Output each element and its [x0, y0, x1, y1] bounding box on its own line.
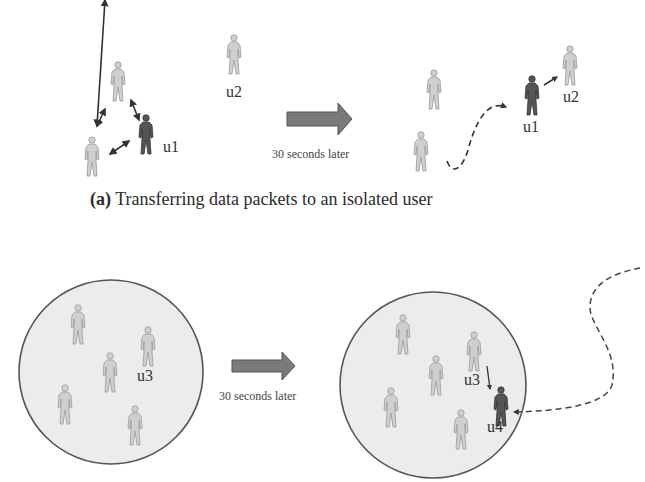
link-arrow-icon — [131, 100, 139, 120]
transition-label: 30 seconds later — [272, 147, 349, 162]
user-u1-label: u1 — [523, 118, 539, 136]
user-u1-icon — [525, 76, 539, 115]
user-icon — [111, 62, 125, 101]
panel-b-after — [340, 268, 640, 478]
user-u2-label: u2 — [563, 88, 579, 106]
transition-arrow-icon — [287, 103, 352, 135]
panel-a-caption: (a) Transferring data packets to an isol… — [90, 189, 432, 210]
panel-b-before — [19, 280, 203, 464]
movement-path-icon — [447, 106, 506, 169]
user-u3-label: u3 — [464, 371, 480, 389]
user-u1-icon — [139, 115, 153, 154]
user-icon — [85, 137, 99, 176]
user-icon — [414, 132, 428, 171]
user-u3-label: u3 — [137, 367, 153, 385]
transition-arrow-icon — [232, 352, 295, 380]
user-u2-label: u2 — [226, 83, 242, 101]
user-u2-icon — [563, 46, 577, 85]
link-arrow-icon — [97, 0, 105, 126]
user-u2-icon — [227, 35, 241, 74]
user-u4-label: u4 — [487, 418, 503, 436]
panel-a-after — [414, 46, 577, 171]
transfer-arrow-icon — [544, 77, 557, 85]
link-arrow-icon — [110, 141, 129, 154]
user-icon — [427, 70, 441, 109]
user-u1-label: u1 — [163, 138, 179, 156]
caption-tag: (a) — [90, 189, 111, 209]
caption-text: Transferring data packets to an isolated… — [115, 189, 432, 209]
movement-path-icon — [514, 268, 640, 412]
transition-label: 30 seconds later — [219, 389, 296, 404]
